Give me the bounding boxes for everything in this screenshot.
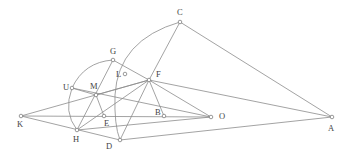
label-K: K: [17, 119, 24, 129]
point-K: [19, 114, 23, 118]
segment-HO: [77, 117, 211, 130]
point-C: [178, 20, 182, 24]
segment-MF: [96, 80, 149, 95]
label-M: M: [90, 81, 98, 91]
label-U: U: [63, 82, 69, 92]
point-labels: CGLFUMKEBOAHD: [17, 7, 335, 151]
segment-KO: [21, 116, 211, 117]
point-G: [111, 58, 115, 62]
label-H: H: [73, 134, 79, 144]
segment-CF: [149, 22, 180, 80]
construction-arcs: [68, 22, 180, 140]
label-B: B: [155, 107, 161, 117]
segment-FA: [149, 80, 332, 117]
label-O: O: [219, 111, 225, 121]
label-E: E: [104, 118, 109, 128]
point-U: [70, 86, 74, 90]
point-L: [123, 72, 127, 76]
label-C: C: [177, 7, 183, 17]
segment-ME: [96, 95, 104, 116]
label-F: F: [156, 69, 161, 79]
segment-UO: [72, 88, 211, 117]
point-O: [209, 115, 213, 119]
labeled-points: [19, 20, 334, 142]
point-A: [330, 115, 334, 119]
point-D: [118, 138, 122, 142]
point-H: [75, 128, 79, 132]
arc-U-H: [68, 88, 77, 130]
point-B: [162, 114, 166, 118]
segment-FD: [120, 80, 149, 140]
construction-lines: [21, 22, 332, 140]
label-A: A: [328, 123, 335, 133]
segment-DA: [120, 117, 332, 140]
segment-HF: [77, 80, 149, 130]
point-M: [94, 93, 98, 97]
label-L: L: [116, 69, 121, 79]
label-G: G: [110, 46, 116, 56]
label-D: D: [106, 141, 112, 151]
geometry-diagram: CGLFUMKEBOAHD: [0, 0, 351, 157]
segment-CA: [180, 22, 332, 117]
point-F: [147, 78, 151, 82]
